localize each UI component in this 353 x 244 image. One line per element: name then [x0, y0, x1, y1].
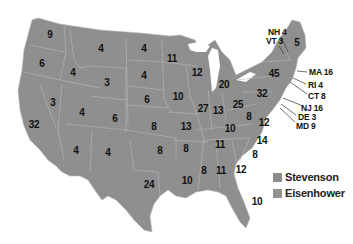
- state-label-tn: 11: [215, 139, 225, 150]
- state-label-ia: 10: [173, 91, 184, 102]
- state-label-il: 27: [198, 103, 209, 114]
- state-label-tx: 24: [144, 179, 155, 190]
- state-label-la: 10: [182, 175, 193, 186]
- legend-item-stevenson: Stevenson: [273, 170, 345, 184]
- state-label-mn: 11: [167, 53, 177, 64]
- state-label-wv: 8: [246, 111, 251, 122]
- state-label-nv: 3: [50, 97, 55, 108]
- state-label-mo: 13: [181, 121, 192, 132]
- legend-item-eisenhower: Eisenhower: [273, 186, 345, 200]
- state-label-ut: 4: [79, 107, 84, 118]
- state-label-wa: 9: [47, 29, 52, 40]
- state-label-ky: 10: [225, 123, 236, 134]
- state-label-fl: 10: [252, 196, 263, 207]
- state-label-nm: 4: [105, 147, 110, 158]
- state-label-al: 11: [216, 165, 226, 176]
- state-label-nc: 14: [257, 135, 268, 146]
- state-label-ks: 8: [151, 121, 156, 132]
- state-label-or: 6: [39, 58, 44, 69]
- legend: Stevenson Eisenhower: [273, 170, 345, 202]
- callout-ma: MA 16: [309, 67, 333, 77]
- legend-label-eisenhower: Eisenhower: [285, 187, 345, 199]
- state-label-in: 13: [213, 105, 224, 116]
- state-label-ar: 8: [183, 143, 188, 154]
- legend-label-stevenson: Stevenson: [285, 171, 339, 183]
- state-label-va: 12: [259, 117, 270, 128]
- state-label-mi: 20: [219, 79, 230, 90]
- state-label-co: 6: [112, 113, 117, 124]
- state-label-pa: 32: [257, 88, 268, 99]
- callout-ri: RI 4: [308, 80, 323, 90]
- state-label-id: 4: [70, 67, 75, 78]
- legend-swatch-eisenhower: [273, 189, 282, 198]
- state-label-wi: 12: [192, 67, 203, 78]
- state-label-ms: 8: [201, 165, 206, 176]
- legend-swatch-stevenson: [273, 173, 282, 182]
- state-label-ca: 32: [29, 119, 40, 130]
- state-label-me: 5: [294, 37, 299, 48]
- state-label-ok: 8: [157, 145, 162, 156]
- state-label-az: 4: [73, 145, 78, 156]
- callout-vt: VT 3: [266, 36, 283, 46]
- state-label-sc: 8: [252, 149, 257, 160]
- state-label-nd: 4: [141, 43, 146, 54]
- state-label-oh: 25: [233, 99, 244, 110]
- state-label-ne: 6: [144, 94, 149, 105]
- state-label-ga: 12: [236, 164, 247, 175]
- state-label-wy: 3: [104, 77, 109, 88]
- state-label-sd: 4: [141, 70, 146, 81]
- callout-ct: CT 8: [308, 91, 326, 101]
- callout-md: MD 9: [296, 121, 316, 131]
- state-label-ny: 45: [269, 68, 280, 79]
- state-label-mt: 4: [98, 43, 103, 54]
